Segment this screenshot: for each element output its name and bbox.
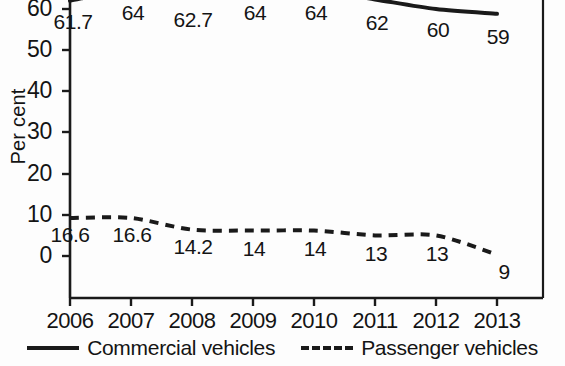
y-tick-label-10: 10 [4,203,52,226]
x-tick-label-2007: 2007 [96,310,166,332]
x-tick-label-2009: 2009 [218,310,288,332]
data-label-commercial-2013: 59 [466,26,530,47]
data-label-commercial-2007: 64 [101,2,165,23]
data-label-commercial-2012: 60 [406,19,470,40]
chart-legend: Commercial vehicles Passenger vehicles [0,336,565,360]
y-tick-label-20: 20 [4,162,52,185]
y-tick-label-30: 30 [4,120,52,143]
legend-key-dashed-line-icon [301,346,353,350]
data-label-passenger-2006: 16.6 [38,224,102,245]
data-label-passenger-2008: 14.2 [161,236,225,257]
legend-label-passenger-vehicles: Passenger vehicles [361,336,538,360]
legend-item-passenger-vehicles[interactable]: Passenger vehicles [301,336,538,360]
data-label-passenger-2012: 13 [405,243,469,264]
data-label-passenger-2013: 9 [472,261,536,282]
y-tick-label-0: 0 [4,244,52,267]
data-label-commercial-2009: 64 [223,2,287,23]
x-tick-label-2008: 2008 [157,310,227,332]
data-label-commercial-2011: 62 [345,12,409,33]
y-tick-label-40: 40 [4,79,52,102]
data-label-commercial-2006: 61.7 [41,11,105,32]
x-tick-label-2006: 2006 [35,310,105,332]
legend-item-commercial-vehicles[interactable]: Commercial vehicles [27,336,275,360]
line-chart: Per cent 60 50 40 30 20 10 0 2006 2007 2… [0,0,565,366]
data-label-passenger-2011: 13 [344,243,408,264]
x-tick-label-2012: 2012 [401,310,471,332]
x-tick-label-2013: 2013 [462,310,532,332]
data-label-passenger-2007: 16.6 [100,224,164,245]
legend-label-commercial-vehicles: Commercial vehicles [87,336,275,360]
data-label-passenger-2009: 14 [222,238,286,259]
data-label-commercial-2010: 64 [284,2,348,23]
x-tick-label-2011: 2011 [340,310,410,332]
y-tick-label-50: 50 [4,38,52,61]
data-label-passenger-2010: 14 [283,238,347,259]
x-tick-label-2010: 2010 [279,310,349,332]
legend-key-solid-line-icon [27,346,79,350]
data-label-commercial-2008: 62.7 [161,9,225,30]
